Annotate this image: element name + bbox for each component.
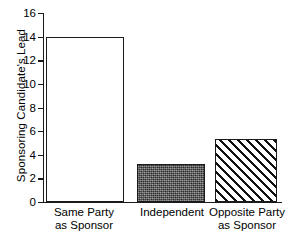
y-tick-label-0: 0 bbox=[30, 196, 36, 208]
x-category-label-opposite-party-line2: as Sponsor bbox=[207, 219, 287, 232]
x-category-label-independent-line1: Independent bbox=[127, 206, 217, 219]
bar-independent bbox=[137, 164, 205, 202]
x-category-label-same-party-line1: Same Party bbox=[39, 206, 129, 219]
x-axis-line bbox=[43, 202, 282, 203]
bar-opposite-party-as-sponsor bbox=[215, 139, 277, 202]
y-tick-label-4: 4 bbox=[30, 149, 36, 161]
y-tick-label-14: 14 bbox=[23, 31, 36, 43]
x-category-label-same-party-line2: as Sponsor bbox=[39, 219, 129, 232]
x-category-label-same-party: Same Party as Sponsor bbox=[39, 206, 129, 231]
y-tick-label-10: 10 bbox=[23, 78, 36, 90]
y-tick-label-2: 2 bbox=[30, 172, 36, 184]
y-tick-label-16: 16 bbox=[23, 7, 36, 19]
bar-same-party-as-sponsor bbox=[46, 37, 124, 202]
clipped-caption bbox=[0, 234, 287, 242]
y-tick-label-12: 12 bbox=[23, 54, 36, 66]
y-tick-label-6: 6 bbox=[30, 125, 36, 137]
y-tick-label-8: 8 bbox=[30, 102, 36, 114]
x-category-label-independent: Independent bbox=[127, 206, 217, 219]
bar-chart-figure: Sponsoring Candidate's Lead 0 2 4 6 8 10 bbox=[0, 0, 287, 242]
x-category-label-opposite-party-line1: Opposite Party bbox=[207, 206, 287, 219]
y-axis-line bbox=[43, 13, 44, 202]
x-category-label-opposite-party: Opposite Party as Sponsor bbox=[207, 206, 287, 231]
plot-area: 0 2 4 6 8 10 12 14 bbox=[43, 13, 282, 202]
